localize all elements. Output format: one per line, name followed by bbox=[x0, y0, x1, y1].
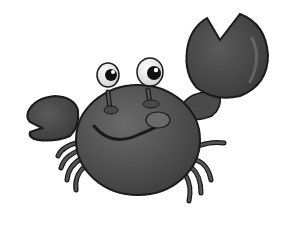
left-eye bbox=[97, 63, 119, 87]
right-eye bbox=[137, 58, 163, 86]
crab-body bbox=[76, 85, 200, 195]
crab-illustration bbox=[0, 0, 282, 225]
left-claw bbox=[27, 96, 78, 141]
